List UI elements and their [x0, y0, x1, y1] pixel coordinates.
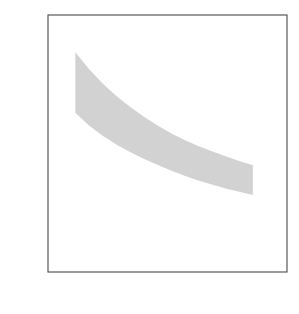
band-gap-shaded-region: [75, 52, 253, 195]
band-gap-fill: [75, 52, 253, 195]
figure-container: [0, 0, 299, 314]
chart-canvas: [0, 0, 299, 314]
